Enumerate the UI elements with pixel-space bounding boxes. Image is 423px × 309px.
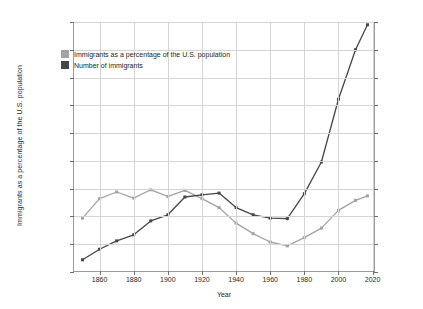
data-point-marker (366, 23, 369, 26)
y-tick-mark-right (374, 133, 378, 134)
data-point-marker (354, 199, 357, 202)
y-tick-mark-right (374, 78, 378, 79)
data-point-marker (218, 206, 221, 209)
legend-label-percentage: Immigrants as a percentage of the U.S. p… (74, 51, 230, 58)
x-tick-mark (338, 271, 339, 275)
y-tick-mark-right (374, 50, 378, 51)
y-tick-mark-right (374, 105, 378, 106)
y-tick-mark-right (374, 244, 378, 245)
x-tick-mark (202, 271, 203, 275)
gridline-horizontal (74, 216, 374, 217)
gridline-horizontal (74, 78, 374, 79)
x-tick-mark (373, 271, 374, 275)
gridline-horizontal (74, 105, 374, 106)
legend-label-number: Number of immigrants (74, 62, 143, 69)
y-tick-mark-right (374, 22, 378, 23)
data-point-marker (115, 239, 118, 242)
data-point-marker (218, 192, 221, 195)
gridline-horizontal (74, 22, 374, 23)
gridline-horizontal (74, 133, 374, 134)
y-tick-mark-left (70, 22, 74, 23)
y-tick-mark-left (70, 78, 74, 79)
x-tick-mark (270, 271, 271, 275)
y-tick-mark-right (374, 189, 378, 190)
y-tick-mark-left (70, 244, 74, 245)
y-tick-mark-left (70, 216, 74, 217)
data-point-marker (149, 219, 152, 222)
x-tick-mark (304, 271, 305, 275)
data-point-marker (286, 217, 289, 220)
y-tick-mark-right (374, 216, 378, 217)
gridline-vertical (270, 22, 271, 271)
y-tick-mark-left (70, 161, 74, 162)
gridline-vertical (236, 22, 237, 271)
x-tick-mark (236, 271, 237, 275)
chart-legend: Immigrants as a percentage of the U.S. p… (61, 50, 230, 72)
y-axis-left-title: Immigrants as a percentage of the U.S. p… (16, 41, 23, 251)
y-tick-mark-left (70, 272, 74, 273)
y-tick-mark-left (70, 189, 74, 190)
y-tick-mark-left (70, 105, 74, 106)
x-tick-mark (100, 271, 101, 275)
y-tick-mark-left (70, 133, 74, 134)
x-tick-mark (168, 271, 169, 275)
data-point-marker (81, 258, 84, 261)
y-tick-mark-right (374, 161, 378, 162)
gridline-horizontal (74, 161, 374, 162)
x-tick-mark (134, 271, 135, 275)
x-axis-title: Year (73, 291, 375, 298)
gridline-vertical (373, 22, 374, 271)
data-point-marker (115, 191, 118, 194)
gridline-vertical (304, 22, 305, 271)
gridline-vertical (338, 22, 339, 271)
x-axis-tick-label: 2020 (353, 276, 393, 283)
legend-item-percentage: Immigrants as a percentage of the U.S. p… (61, 50, 230, 58)
gridline-horizontal (74, 189, 374, 190)
immigration-chart: Immigrants as a percentage of the U.S. p… (0, 0, 423, 309)
y-tick-mark-right (374, 272, 378, 273)
data-point-marker (252, 232, 255, 235)
legend-swatch-percentage (61, 50, 69, 58)
legend-item-number: Number of immigrants (61, 61, 230, 69)
data-point-marker (183, 196, 186, 199)
data-point-marker (366, 194, 369, 197)
data-point-marker (320, 227, 323, 230)
gridline-horizontal (74, 244, 374, 245)
legend-swatch-number (61, 61, 69, 69)
